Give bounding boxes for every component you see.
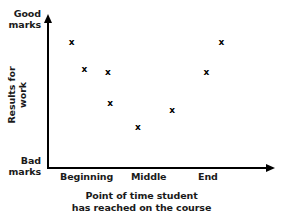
data-point-marker: x [133, 123, 142, 132]
x-axis-caption-line2: has reached on the course [0, 202, 283, 214]
x-axis-tick-label: End [198, 171, 218, 182]
data-point-marker: x [106, 99, 115, 108]
data-point-marker: x [80, 65, 89, 74]
x-axis-caption-line1: Point of time student [0, 190, 283, 202]
data-point-marker: x [103, 68, 112, 77]
data-point-marker: x [202, 68, 211, 77]
scatter-chart: Good marks Bad marks Results for work xx… [0, 0, 283, 220]
data-point-marker: x [67, 38, 76, 47]
x-axis-tick-label: Beginning [60, 171, 113, 182]
plot-area: xxxxxxxx [0, 0, 283, 220]
data-point-marker: x [217, 38, 226, 47]
data-point-marker: x [168, 106, 177, 115]
x-axis-caption: Point of time student has reached on the… [0, 190, 283, 213]
x-axis-tick-label: Middle [131, 171, 166, 182]
